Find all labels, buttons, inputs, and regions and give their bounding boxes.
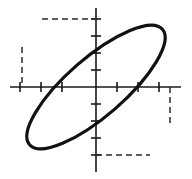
figure-container — [0, 0, 192, 179]
ellipse-plot-svg — [0, 0, 192, 179]
